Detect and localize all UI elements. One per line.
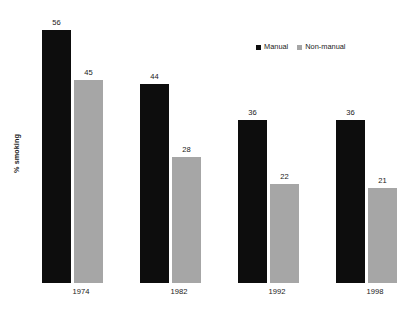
bar-rect xyxy=(42,30,71,283)
x-tick-label-1982: 1982 xyxy=(171,288,188,296)
bar-rect xyxy=(336,120,365,283)
bar-rect xyxy=(368,188,397,283)
x-tick-label-1974: 1974 xyxy=(73,288,90,296)
bar-group-1998: 36 21 xyxy=(326,12,419,283)
bar-chart: % smoking Manual Non-manual 56 45 xyxy=(0,0,419,311)
bar-rect xyxy=(140,84,169,283)
bar-value-label: 36 xyxy=(248,109,256,117)
plot-area: 56 45 44 28 36 xyxy=(32,12,412,283)
bar-group-1992: 36 22 xyxy=(228,12,326,283)
x-axis-labels: 1974 1982 1992 1998 xyxy=(32,288,412,302)
bar-value-label: 28 xyxy=(182,146,190,154)
bar-value-label: 44 xyxy=(150,73,158,81)
bar-rect xyxy=(238,120,267,283)
y-axis-title-text: % smoking xyxy=(12,134,21,173)
bar-rect xyxy=(270,184,299,283)
bar-value-label: 21 xyxy=(378,177,386,185)
bar-value-label: 22 xyxy=(280,173,288,181)
y-axis-title: % smoking xyxy=(9,118,23,188)
bar-value-label: 45 xyxy=(84,69,92,77)
bar-group-1982: 44 28 xyxy=(130,12,228,283)
x-tick-label-1992: 1992 xyxy=(269,288,286,296)
bar-value-label: 36 xyxy=(346,109,354,117)
bar-rect xyxy=(74,80,103,283)
bar-group-1974: 56 45 xyxy=(32,12,130,283)
x-tick-label-1998: 1998 xyxy=(367,288,384,296)
bar-rect xyxy=(172,157,201,283)
bar-value-label: 56 xyxy=(52,19,60,27)
